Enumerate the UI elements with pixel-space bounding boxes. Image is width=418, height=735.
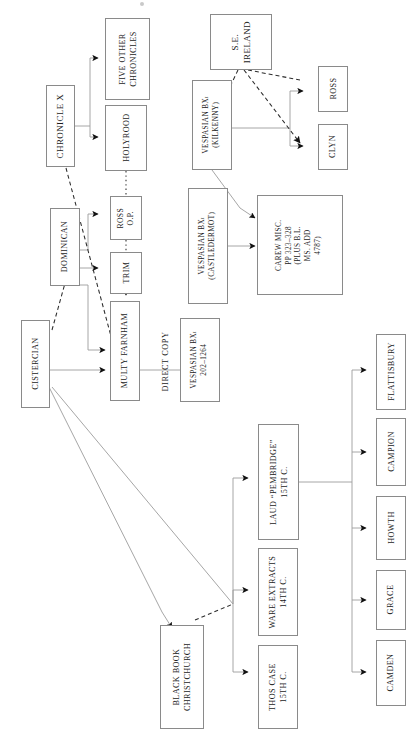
scan-artifact: [140, 2, 144, 6]
edge-cistercian-blackbook-a: [48, 385, 162, 612]
node-label: TRIM: [120, 262, 131, 284]
node-grace[interactable]: GRACE: [376, 570, 406, 630]
edge-seireland-clyn: [244, 70, 300, 143]
node-thos-case[interactable]: THOS CASE 15TH C.: [258, 645, 298, 729]
node-vespasian-castledermot[interactable]: VESPASIAN BXi (CASTLEDERMOT): [188, 188, 228, 304]
node-label: 14TH C.: [278, 556, 289, 629]
node-camden[interactable]: CAMDEN: [376, 640, 406, 706]
node-label: VESPASIAN BXi: [202, 96, 212, 154]
node-label: MULTY FARNHAM: [119, 313, 130, 389]
node-label: S.E.: [229, 21, 241, 63]
node-label: DOMINICAN: [59, 221, 70, 272]
node-ross[interactable]: ROSS: [318, 66, 348, 112]
node-flattisbury[interactable]: FLATTISBURY: [376, 334, 406, 410]
edge-kilkenny-carew-arrow: [240, 208, 255, 218]
node-label: THOS CASE: [267, 663, 278, 711]
node-label: 15TH C.: [278, 663, 289, 711]
diagram-canvas: CHRONICLE X FIVE OTHER CHRONICLES HOLYRO…: [0, 0, 418, 735]
node-label: VESPASIAN BXi: [198, 212, 208, 280]
node-label: ROSS: [327, 78, 338, 100]
node-label: (CASTLEDERMOT): [208, 212, 218, 280]
node-label: (KILKENNY): [212, 96, 222, 154]
node-howth[interactable]: HOWTH: [376, 496, 406, 560]
node-label: O.P.: [126, 208, 136, 229]
node-black-book-christchurch[interactable]: BLACK BOOK CHRISTCHURCH: [160, 625, 204, 729]
node-multy-farnham[interactable]: MULTY FARNHAM: [110, 301, 140, 401]
node-dominican[interactable]: DOMINICAN: [50, 208, 80, 286]
node-label: CLYN: [327, 135, 338, 158]
node-ware-extracts[interactable]: WARE EXTRACTS 14TH C.: [258, 548, 298, 636]
node-se-ireland[interactable]: S.E. IRELAND: [210, 14, 272, 70]
node-label: FLATTISBURY: [385, 343, 396, 402]
node-label: 15TH C.: [279, 439, 290, 525]
node-label: HOWTH: [385, 512, 396, 544]
node-label: (PLUS B.L.: [295, 219, 305, 270]
node-label: HOLYROOD: [120, 114, 131, 162]
node-label: CHRONICLES: [128, 31, 139, 86]
node-label: CHRONICLE X: [54, 94, 66, 159]
node-vespasian-kilkenny[interactable]: VESPASIAN BXi (KILKENNY): [192, 80, 232, 170]
node-holyrood[interactable]: HOLYROOD: [105, 105, 147, 171]
node-label: CHRISTCHURCH: [182, 643, 193, 711]
node-chronicle-x[interactable]: CHRONICLE X: [46, 85, 75, 167]
node-carew-misc[interactable]: CAREW MISC. PP 323–328 (PLUS B.L. MS. AD…: [257, 195, 343, 295]
node-label: FIVE OTHER: [116, 31, 127, 86]
node-label: CAMPION: [385, 432, 396, 473]
node-label: 4787): [315, 219, 325, 270]
edge-blackbook-laud-dashed: [195, 604, 233, 620]
node-label: CISTERCIAN: [30, 338, 41, 390]
node-trim[interactable]: TRIM: [110, 252, 142, 294]
node-ross-op[interactable]: ROSS O.P.: [110, 196, 142, 240]
node-five-other-chronicles[interactable]: FIVE OTHER CHRONICLES: [105, 18, 150, 100]
edge-cistercian-blackbook-b: [52, 387, 233, 604]
node-clyn[interactable]: CLYN: [318, 124, 348, 170]
node-label: WARE EXTRACTS: [267, 556, 278, 629]
node-label: 202–1264: [200, 331, 210, 389]
label-direct-copy: DIRECT COPY: [140, 318, 192, 404]
node-label: MS. ADD: [305, 219, 315, 270]
node-label: BLACK BOOK: [171, 643, 182, 711]
node-label: PP 323–328: [285, 219, 295, 270]
node-label: GRACE: [385, 585, 396, 615]
node-label: ROSS: [116, 208, 126, 229]
node-label: LAUD “PEMBRIDGE”: [267, 439, 278, 525]
direct-copy-text: DIRECT COPY: [162, 331, 171, 391]
node-campion[interactable]: CAMPION: [376, 418, 406, 486]
node-label: IRELAND: [241, 21, 253, 63]
node-cistercian[interactable]: CISTERCIAN: [21, 320, 50, 408]
node-laud-pembridge[interactable]: LAUD “PEMBRIDGE” 15TH C.: [258, 424, 299, 540]
node-label: CAREW MISC.: [276, 219, 286, 270]
edge-seireland-ross: [248, 70, 300, 80]
node-label: CAMDEN: [385, 654, 396, 692]
